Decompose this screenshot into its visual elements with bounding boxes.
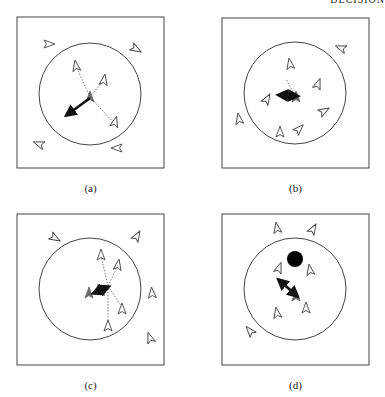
neighbor-link	[101, 256, 108, 286]
obstacle	[287, 251, 303, 267]
steering-vector-arrow	[279, 280, 297, 296]
neighbor-agent-icon	[71, 59, 81, 71]
neighbor-agent-icon	[131, 229, 143, 243]
neighbor-agent-icon	[243, 324, 256, 338]
neighbor-link	[108, 286, 122, 307]
neighbor-agent-icon	[274, 261, 285, 274]
panel-caption: (a)	[84, 182, 97, 195]
neighbor-agent-icon	[305, 263, 315, 275]
panel-caption: (b)	[289, 182, 302, 195]
neighbor-agent-icon	[313, 77, 324, 90]
panel-a: (a)	[17, 17, 164, 195]
neighbor-agent-icon	[111, 144, 122, 152]
steering-vector-arrow	[279, 95, 297, 96]
neighbor-agent-icon	[147, 287, 156, 299]
steering-vector-arrow	[94, 287, 108, 293]
neighbor-agent-icon	[113, 258, 123, 270]
neighbor-agent-icon	[334, 42, 347, 53]
neighbor-agent-icon	[276, 126, 284, 137]
neighbor-agent-icon	[99, 73, 109, 85]
neighbor-agent-icon	[144, 331, 155, 344]
neighbor-agent-icon	[272, 306, 282, 318]
panel-c: (c)	[17, 214, 164, 392]
neighbor-agent-icon	[318, 105, 332, 117]
neighbor-agent-icon	[49, 232, 63, 244]
neighbor-agent-icon	[32, 138, 45, 149]
neighbor-agent-icon	[130, 43, 144, 55]
neighbor-agent-icon	[272, 221, 282, 233]
focal-agent-icon	[85, 287, 93, 298]
neighbor-agent-icon	[97, 249, 105, 260]
neighbor-agent-icon	[104, 320, 112, 331]
neighbor-agent-icon	[118, 303, 126, 314]
panel-d: (d)	[222, 214, 369, 392]
neighbor-agent-icon	[261, 92, 273, 106]
neighbor-agent-icon	[44, 40, 55, 48]
panel-b: (b)	[222, 18, 369, 195]
neighbor-agent-icon	[110, 115, 121, 128]
neighbor-agent-icon	[302, 302, 310, 313]
steering-vector-arrow	[67, 98, 90, 115]
neighbor-agent-icon	[234, 112, 244, 124]
panel-caption: (c)	[84, 379, 97, 392]
panel-caption: (d)	[289, 379, 302, 392]
neighbor-link	[76, 66, 90, 97]
neighbor-agent-icon	[285, 57, 295, 69]
neighbor-agent-icon	[307, 222, 319, 236]
neighbor-agent-icon	[293, 122, 306, 135]
